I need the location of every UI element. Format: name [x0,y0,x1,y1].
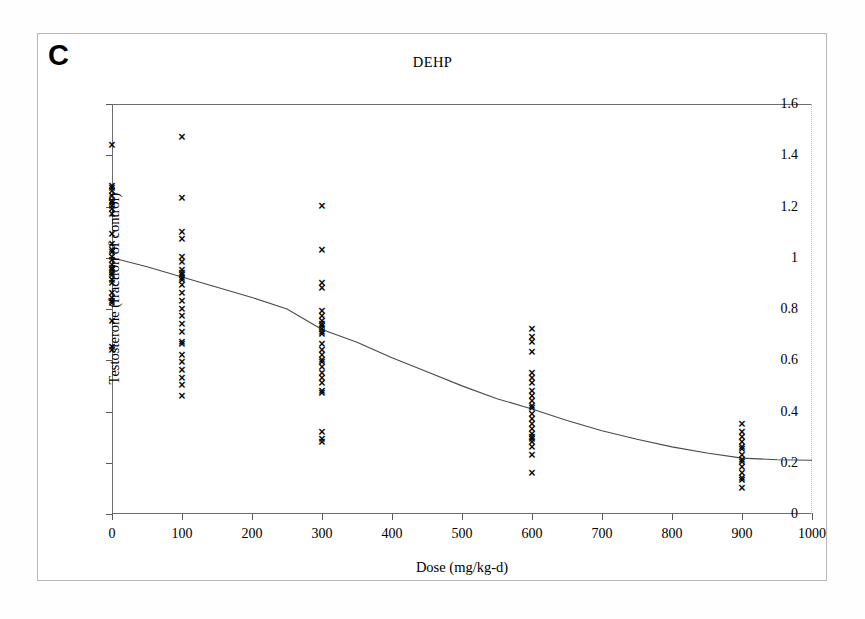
scatter-point: × [737,444,748,455]
x-tick-label: 200 [222,527,282,541]
scatter-point: × [177,252,188,263]
scatter-point: × [317,388,328,399]
scatter-point: × [527,437,538,448]
x-tick-label: 800 [642,527,702,541]
scatter-point: × [177,311,188,322]
scatter-point: × [527,324,538,335]
scatter-point: × [737,432,748,443]
scatter-point: × [177,357,188,368]
scatter-point: × [317,339,328,350]
scatter-point: × [317,329,328,340]
x-tick-mark [672,514,673,520]
scatter-point: × [317,427,328,438]
scatter-point: × [177,380,188,391]
scatter-point: × [177,304,188,315]
scatter-point: × [317,434,328,445]
x-tick-mark [392,514,393,520]
x-tick-label: 900 [712,527,772,541]
x-tick-mark [252,514,253,520]
scatter-point: × [177,288,188,299]
scatter-point: × [527,414,538,425]
scatter-point: × [317,283,328,294]
scatter-point: × [177,280,188,291]
scatter-point: × [177,227,188,238]
scatter-point: × [527,450,538,461]
scatter-point: × [317,316,328,327]
scatter-point: × [527,424,538,435]
scatter-point: × [737,427,748,438]
x-tick-mark [182,514,183,520]
scatter-point: × [737,462,748,473]
scatter-point: × [527,419,538,430]
scatter-point: × [527,368,538,379]
scatter-point: × [317,278,328,289]
x-tick-label: 100 [152,527,212,541]
scatter-point: × [177,270,188,281]
scatter-point: × [527,347,538,358]
x-tick-mark [742,514,743,520]
scatter-point: × [317,324,328,335]
chart-title: DEHP [0,54,865,71]
scatter-point: × [527,386,538,397]
scatter-point: × [177,234,188,245]
scatter-point: × [177,391,188,402]
x-tick-mark [812,514,813,520]
scatter-point: × [737,457,748,468]
scatter-point: × [317,201,328,212]
scatter-point: × [177,350,188,361]
scatter-point: × [317,319,328,330]
scatter-point: × [527,432,538,443]
scatter-point: × [177,319,188,330]
scatter-point: × [177,275,188,286]
scatter-point: × [317,327,328,338]
scatter-point: × [527,468,538,479]
x-tick-mark [322,514,323,520]
scatter-point: × [317,311,328,322]
scatter-point: × [317,386,328,397]
scatter-point: × [177,296,188,307]
scatter-point: × [177,373,188,384]
scatter-point: × [317,306,328,317]
y-axis-title: Testosterone (fraction of control) [106,0,123,609]
scatter-point: × [527,442,538,453]
scatter-point: × [317,355,328,366]
x-axis-title: Dose (mg/kg-d) [112,559,812,576]
x-tick-mark [462,514,463,520]
scatter-point: × [177,339,188,350]
scatter-point: × [527,429,538,440]
x-tick-label: 1000 [782,527,842,541]
scatter-point: × [177,265,188,276]
x-tick-mark [602,514,603,520]
figure-page: C DEHP 00.20.40.60.811.21.41.6 010020030… [0,0,865,619]
scatter-point: × [527,378,538,389]
scatter-point: × [527,391,538,402]
scatter-point: × [317,350,328,361]
scatter-point: × [527,396,538,407]
scatter-point: × [317,245,328,256]
scatter-point: × [177,257,188,268]
x-tick-mark [532,514,533,520]
scatter-point: × [317,345,328,356]
scatter-point: × [317,373,328,384]
scatter-point: × [737,455,748,466]
scatter-point: × [527,401,538,412]
scatter-point: × [737,468,748,479]
x-tick-label: 700 [572,527,632,541]
scatter-markers: ××××××××××××××××××××××××××××××××××××××××… [112,104,812,514]
scatter-point: × [177,327,188,338]
x-tick-label: 600 [502,527,562,541]
scatter-point: × [737,483,748,494]
x-tick-label: 300 [292,527,352,541]
scatter-point: × [527,409,538,420]
x-tick-label: 400 [362,527,422,541]
scatter-point: × [527,332,538,343]
scatter-point: × [737,442,748,453]
plot-area: 00.20.40.60.811.21.41.6 0100200300400500… [112,104,812,514]
scatter-point: × [737,437,748,448]
scatter-point: × [317,368,328,379]
scatter-point: × [527,373,538,384]
scatter-point: × [737,473,748,484]
scatter-point: × [317,357,328,368]
scatter-point: × [737,419,748,430]
scatter-point: × [177,193,188,204]
